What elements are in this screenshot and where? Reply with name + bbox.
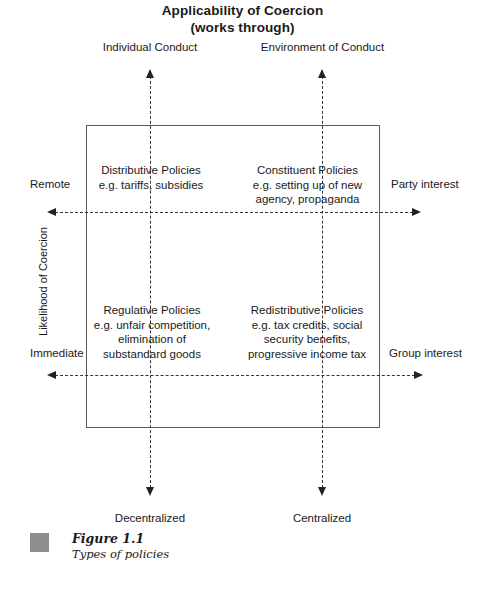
figure-title-line-2: (works through) — [0, 19, 485, 36]
y-axis-title-likelihood-of-coercion: Likelihood of Coercion — [37, 222, 50, 342]
column-header-environment-of-conduct: Environment of Conduct — [245, 40, 400, 54]
quadrant-title-regulative: Regulative Policies — [82, 303, 222, 318]
quadrant-example-distributive-line-1: e.g. tariffs, subsidies — [88, 178, 214, 193]
quadrant-title-constituent: Constituent Policies — [235, 163, 380, 178]
axis-label-group-interest: Group interest — [389, 346, 462, 360]
axis-label-remote: Remote — [30, 177, 70, 191]
quadrant-example-redistributive-line-2: security benefits, — [232, 332, 382, 347]
caption-figure-number: Figure 1.1 — [72, 531, 169, 547]
arrow-down-icon-decentralized — [146, 487, 154, 496]
quadrant-example-constituent-line-2: agency, propaganda — [235, 192, 380, 207]
quadrant-example-regulative-line-2: elimination of — [82, 332, 222, 347]
figure-title: Applicability of Coercion (works through… — [0, 2, 485, 36]
quadrant-cell-regulative-policies: Regulative Policies e.g. unfair competit… — [82, 303, 222, 361]
axis-label-decentralized: Decentralized — [90, 511, 210, 525]
axis-line-group-interest — [55, 375, 420, 376]
axis-label-immediate: Immediate — [30, 346, 84, 360]
figure-container: Applicability of Coercion (works through… — [0, 0, 485, 592]
arrow-up-icon-centralized — [318, 69, 326, 78]
axis-label-centralized: Centralized — [262, 511, 382, 525]
axis-label-party-interest: Party interest — [391, 177, 459, 191]
axis-line-centralized — [322, 76, 323, 488]
column-header-individual-conduct: Individual Conduct — [75, 40, 225, 54]
figure-title-line-1: Applicability of Coercion — [0, 2, 485, 19]
figure-caption: Figure 1.1 Types of policies — [30, 531, 390, 575]
arrow-right-icon-group-interest — [414, 371, 423, 379]
caption-text-block: Figure 1.1 Types of policies — [72, 531, 169, 562]
arrow-down-icon-centralized — [318, 487, 326, 496]
quadrant-title-redistributive: Redistributive Policies — [232, 303, 382, 318]
caption-swatch-icon — [30, 533, 49, 552]
quadrant-cell-constituent-policies: Constituent Policies e.g. setting up of … — [235, 163, 380, 207]
axis-line-decentralized — [150, 76, 151, 488]
quadrant-cell-distributive-policies: Distributive Policies e.g. tariffs, subs… — [88, 163, 214, 192]
axis-line-party-interest — [55, 212, 418, 213]
arrow-up-icon-decentralized — [146, 69, 154, 78]
quadrant-example-redistributive-line-3: progressive income tax — [232, 347, 382, 362]
quadrant-title-distributive: Distributive Policies — [88, 163, 214, 178]
quadrant-example-constituent-line-1: e.g. setting up of new — [235, 178, 380, 193]
quadrant-example-regulative-line-3: substandard goods — [82, 347, 222, 362]
arrow-left-icon-remote — [47, 208, 56, 216]
arrow-right-icon-party-interest — [412, 208, 421, 216]
caption-figure-title: Types of policies — [72, 547, 169, 562]
quadrant-example-redistributive-line-1: e.g. tax credits, social — [232, 318, 382, 333]
quadrant-cell-redistributive-policies: Redistributive Policies e.g. tax credits… — [232, 303, 382, 361]
quadrant-example-regulative-line-1: e.g. unfair competition, — [82, 318, 222, 333]
arrow-left-icon-immediate — [47, 371, 56, 379]
